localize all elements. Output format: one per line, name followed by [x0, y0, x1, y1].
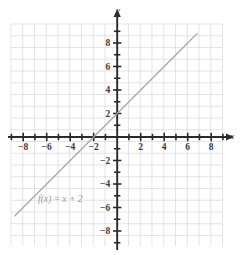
y-tick-label: 2 [105, 109, 110, 119]
x-tick-label: −6 [42, 142, 52, 152]
coordinate-plane-figure: −8−6−4−224688642−2−4−6−8 x y f(x) = x + … [0, 0, 241, 255]
y-tick-label: 6 [105, 62, 110, 72]
x-axis-label: x [229, 131, 234, 141]
y-tick-label: 4 [105, 85, 110, 95]
y-tick-label: −2 [100, 156, 110, 166]
y-tick-label: −6 [100, 203, 110, 213]
x-tick-label: −8 [18, 142, 28, 152]
y-axis-label: y [115, 5, 120, 15]
x-tick-label: 4 [162, 142, 167, 152]
graph-canvas: −8−6−4−224688642−2−4−6−8 x y f(x) = x + … [0, 0, 241, 255]
x-tick-label: −2 [89, 142, 99, 152]
x-tick-label: −4 [65, 142, 75, 152]
x-tick-label: 8 [209, 142, 214, 152]
y-tick-label: −4 [100, 179, 110, 189]
x-tick-label: 6 [185, 142, 190, 152]
y-tick-label: −8 [100, 226, 110, 236]
x-tick-label: 2 [138, 142, 143, 152]
y-tick-label: 8 [105, 38, 110, 48]
function-equation-label: f(x) = x + 2 [38, 194, 83, 205]
